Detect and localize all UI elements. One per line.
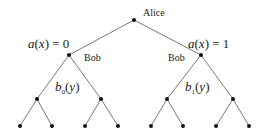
node	[35, 97, 39, 101]
edge-alice-bob-left	[69, 20, 134, 55]
bob-label-right: Bob	[168, 52, 185, 63]
node-bob-right	[199, 53, 203, 57]
edge	[20, 99, 37, 126]
node	[231, 97, 235, 101]
alice-label: Alice	[143, 7, 165, 18]
node	[99, 97, 103, 101]
edge	[167, 99, 183, 126]
node-bob-left	[67, 53, 71, 57]
game-tree-diagram: Alice a(x) = 0 a(x) = 1 Bob Bob b0(y) b1…	[0, 0, 265, 135]
strategy-label-right: b1(y)	[185, 79, 209, 96]
branch-label-right: a(x) = 1	[188, 36, 229, 51]
branch-label-left: a(x) = 0	[28, 36, 69, 51]
node-alice	[132, 18, 136, 22]
leaf-node	[18, 124, 22, 128]
edge	[151, 99, 167, 126]
leaf-node	[181, 124, 185, 128]
edge	[85, 99, 101, 126]
strategy-label-left: b0(y)	[55, 79, 79, 96]
tree-nodes	[18, 18, 251, 128]
bob-label-left: Bob	[84, 52, 101, 63]
leaf-node	[116, 124, 120, 128]
edge	[216, 99, 233, 126]
leaf-node	[50, 124, 54, 128]
edge	[101, 99, 118, 126]
edge	[37, 99, 52, 126]
edge	[233, 99, 249, 126]
node	[165, 97, 169, 101]
leaf-node	[83, 124, 87, 128]
leaf-node	[247, 124, 251, 128]
leaf-node	[149, 124, 153, 128]
leaf-node	[214, 124, 218, 128]
